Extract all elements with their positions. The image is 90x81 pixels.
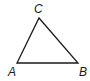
vertex-label-c: C xyxy=(34,2,43,16)
triangle-abc xyxy=(17,18,78,63)
vertex-label-b: B xyxy=(79,65,87,79)
vertex-label-a: A xyxy=(7,65,16,79)
triangle-diagram: A B C xyxy=(0,0,90,81)
